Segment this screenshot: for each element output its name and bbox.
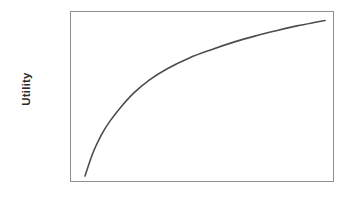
utility-curve-line (85, 21, 325, 176)
utility-curve-figure: Utility (0, 0, 351, 199)
plot-area (70, 11, 334, 182)
y-axis-label: Utility (0, 0, 70, 199)
y-axis-label-text: Utility (20, 72, 32, 105)
